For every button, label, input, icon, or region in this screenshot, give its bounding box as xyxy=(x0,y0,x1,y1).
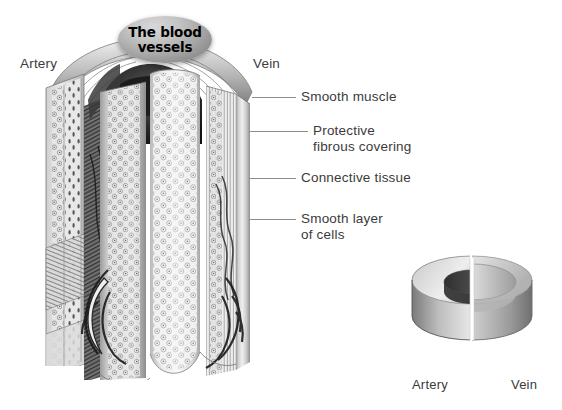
callout-smooth-layer-of-cells: Smooth layer of cells xyxy=(301,211,383,243)
blood-vessel-illustration xyxy=(40,34,262,380)
inset-center-split xyxy=(470,258,474,340)
page-title: The blood vessels xyxy=(128,25,201,55)
callout-smooth-muscle: Smooth muscle xyxy=(301,89,397,105)
cross-section-inset xyxy=(404,252,556,372)
inset-label-artery: Artery xyxy=(412,377,448,393)
artery-wall-slab xyxy=(46,74,84,378)
callout-protective-fibrous-covering: Protective fibrous covering xyxy=(313,123,412,155)
title-bubble: The blood vessels xyxy=(118,16,212,63)
endothelium-tube xyxy=(150,70,200,374)
callout-connective-tissue: Connective tissue xyxy=(301,170,411,186)
inset-label-vein: Vein xyxy=(511,377,537,393)
fibrous-coat-tube xyxy=(100,82,146,380)
figure-root: The blood vessels Artery Vein Smooth mus… xyxy=(0,0,562,410)
